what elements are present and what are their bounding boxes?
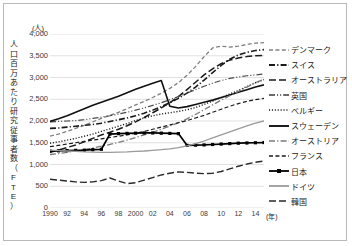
series-marker [125,132,128,135]
y-axis-tick-label: 2,500 [14,94,48,103]
legend-line-swatch-icon [268,196,290,206]
legend-line-swatch-icon [268,166,290,176]
x-axis-unit-label: (年) [266,211,278,221]
y-axis-tick-label: 1,500 [14,138,48,147]
y-axis-tick-label: 2,000 [14,116,48,125]
x-axis-tick-label: 96 [97,210,105,217]
series-1 [50,50,264,129]
series-marker [228,142,231,145]
legend-line-swatch-icon [268,45,290,55]
y-axis-tick-label: 3,500 [14,51,48,60]
series-marker [160,132,163,135]
series-line [50,98,264,146]
x-axis-tick-label: 94 [80,210,88,217]
legend-line-swatch-icon [268,151,290,161]
plot-area [50,34,264,208]
series-marker [108,132,111,135]
legend-item[interactable]: スイス [268,57,352,72]
chart-frame: (人) 人口百万あたり研究従事者数（FTE） 4,0003,5003,0002,… [3,3,347,241]
legend-item[interactable]: 日本 [268,164,352,179]
legend-item-label: オーストラリア [291,74,347,85]
legend-item-label: スウェーデン [291,120,339,131]
series-7 [50,98,264,146]
series-marker [220,142,223,145]
legend-item-label: 英国 [291,90,307,101]
legend-item-label: 日本 [291,166,307,177]
legend-item-label: オーストリア [291,135,339,146]
legend-line-swatch-icon [268,75,290,85]
legend-line-swatch-icon [268,105,290,115]
legend-line-swatch-icon [268,90,290,100]
legend-item[interactable]: オーストリア [268,133,352,148]
x-axis-tick-label: 1990 [42,210,58,217]
legend-item[interactable]: デンマーク [268,42,352,57]
y-axis-tick-label: 4,000 [14,29,48,38]
series-marker [168,132,171,135]
series-2 [50,55,264,152]
legend-line-swatch-icon [268,121,290,131]
x-axis-tick-label: 92 [63,210,71,217]
series-marker [254,141,257,144]
x-axis-tick-label: 04 [166,210,174,217]
y-axis-tick-label: 1,000 [14,160,48,169]
legend-item[interactable]: オーストラリア [268,72,352,87]
x-axis-tick-label: 06 [183,210,191,217]
legend-item-label: デンマーク [291,44,331,55]
series-marker [91,148,94,151]
series-marker [211,143,214,146]
legend-item[interactable]: ベルギー [268,103,352,118]
x-axis-tick-label: 14 [252,210,260,217]
legend-line-swatch-icon [268,60,290,70]
y-axis-tick-label: 500 [14,181,48,190]
series-line [50,50,264,129]
x-axis-tick-labels: 199092949698200002040608101214 [4,210,352,224]
series-marker [117,132,120,135]
legend-item-label: ドイツ [291,181,315,192]
series-marker [100,148,103,151]
legend-line-swatch-icon [268,181,290,191]
series-line [50,55,264,152]
chart-legend: デンマークスイスオーストラリア英国ベルギースウェーデンオーストリアフランス日本ド… [268,42,352,209]
x-axis-tick-label: 12 [234,210,242,217]
legend-item[interactable]: フランス [268,148,352,163]
series-marker [245,141,248,144]
series-marker [177,132,180,135]
legend-item-label: ベルギー [291,105,323,116]
series-marker [143,131,146,134]
x-axis-tick-label: 10 [217,210,225,217]
line-chart-svg [50,34,264,208]
series-line [50,43,264,137]
y-axis-tick-label: 3,000 [14,73,48,82]
series-marker [237,142,240,145]
x-axis-tick-label: 2000 [128,210,144,217]
legend-item-label: フランス [291,150,323,161]
series-marker [262,141,264,144]
series-0 [50,43,264,137]
x-axis-tick-label: 08 [200,210,208,217]
series-marker [202,143,205,146]
legend-line-swatch-icon [268,136,290,146]
x-axis-tick-label: 98 [115,210,123,217]
legend-item-label: 韓国 [291,196,307,207]
legend-item[interactable]: 英国 [268,88,352,103]
legend-item[interactable]: ドイツ [268,179,352,194]
x-axis-tick-label: 02 [149,210,157,217]
series-marker [151,131,154,134]
legend-item[interactable]: スウェーデン [268,118,352,133]
legend-item-label: スイス [291,59,315,70]
legend-item[interactable]: 韓国 [268,194,352,209]
series-marker [134,132,137,135]
